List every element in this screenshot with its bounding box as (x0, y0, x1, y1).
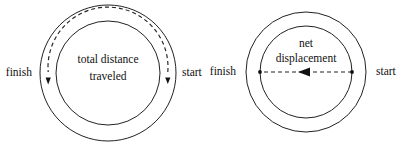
net-displacement-arrowhead (298, 68, 310, 77)
right-diagram-finish-label: finish (210, 65, 236, 77)
left-diagram-start-label: start (182, 66, 203, 78)
diagram-total-distance: total distance traveled finish start (6, 5, 203, 141)
net-displacement-finish-dot (258, 70, 262, 74)
net-displacement-start-dot (350, 70, 354, 74)
left-diagram-finish-label: finish (6, 66, 32, 78)
right-diagram-start-label: start (376, 65, 397, 77)
physics-figure: total distance traveled finish start net… (0, 0, 406, 150)
diagram-net-displacement: net displacement finish start (210, 12, 397, 132)
total-distance-caption-line1: total distance (78, 53, 139, 65)
figure-canvas: total distance traveled finish start net… (0, 0, 406, 150)
total-distance-start-marker (165, 78, 170, 85)
total-distance-arrowhead (46, 78, 51, 85)
net-displacement-caption-line1: net (299, 37, 314, 49)
total-distance-caption-line2: traveled (89, 70, 126, 82)
net-displacement-caption-line2: displacement (276, 52, 337, 65)
